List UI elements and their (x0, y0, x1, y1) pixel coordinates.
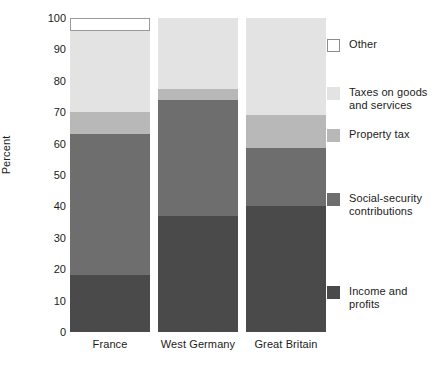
y-axis-tick-0: 0 (34, 327, 66, 338)
bar-segment[interactable] (246, 206, 326, 332)
bar-segment[interactable] (158, 89, 238, 100)
y-axis-tick-40: 40 (34, 201, 66, 212)
plot-area (70, 18, 326, 332)
y-axis-tick-10: 10 (34, 295, 66, 306)
bar-segment[interactable] (246, 148, 326, 206)
y-axis-tick-20: 20 (34, 264, 66, 275)
bar-segment[interactable] (70, 134, 150, 275)
legend-item[interactable]: Other (327, 38, 377, 52)
bar-segment[interactable] (70, 31, 150, 113)
legend-label: Property tax (349, 128, 410, 141)
bar-segment[interactable] (158, 18, 238, 89)
legend-swatch-icon (327, 129, 340, 142)
y-axis-tick-labels: 0102030405060708090100 (34, 0, 66, 366)
legend-swatch-icon (327, 286, 340, 299)
bar-column[interactable] (70, 18, 150, 332)
chart-legend: OtherTaxes on goods and servicesProperty… (327, 0, 441, 366)
legend-swatch-icon (327, 193, 340, 206)
bar-segment[interactable] (246, 115, 326, 148)
y-axis-tick-100: 100 (34, 13, 66, 24)
y-axis-title: Percent (0, 120, 12, 190)
bar-column[interactable] (246, 18, 326, 332)
bar-stack (70, 18, 150, 332)
legend-item[interactable]: Social-security contributions (327, 192, 441, 217)
legend-item[interactable]: Taxes on goods and services (327, 86, 441, 111)
bar-segment[interactable] (70, 112, 150, 134)
y-axis-tick-80: 80 (34, 75, 66, 86)
bar-column[interactable] (158, 18, 238, 332)
y-axis-tick-90: 90 (34, 44, 66, 55)
bar-segment[interactable] (246, 18, 326, 115)
bar-segment[interactable] (70, 275, 150, 332)
bar-stack (158, 18, 238, 332)
legend-label: Social-security contributions (349, 192, 441, 217)
bar-stack (246, 18, 326, 332)
legend-label: Taxes on goods and services (349, 86, 441, 111)
legend-swatch-icon (327, 87, 340, 100)
stacked-bar-chart: Percent 0102030405060708090100 OtherTaxe… (0, 0, 441, 366)
bar-segment[interactable] (70, 18, 150, 31)
y-axis-tick-60: 60 (34, 138, 66, 149)
legend-label: Other (349, 38, 377, 51)
legend-item[interactable]: Property tax (327, 128, 410, 142)
bar-segment[interactable] (158, 216, 238, 332)
legend-swatch-icon (327, 39, 340, 52)
bar-segment[interactable] (158, 100, 238, 216)
legend-label: Income and profits (349, 285, 441, 310)
y-axis-tick-70: 70 (34, 107, 66, 118)
legend-item[interactable]: Income and profits (327, 285, 441, 310)
y-axis-tick-30: 30 (34, 232, 66, 243)
y-axis-tick-50: 50 (34, 170, 66, 181)
x-axis-label: Great Britain (228, 338, 344, 350)
